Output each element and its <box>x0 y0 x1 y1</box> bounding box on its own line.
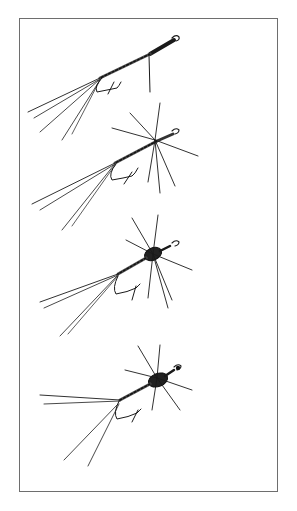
fly-3-drawing <box>40 215 192 336</box>
fly-illustrations <box>0 0 297 511</box>
fly-2-drawing <box>32 103 198 230</box>
fly-4-drawing <box>40 345 192 466</box>
fly-1-drawing <box>28 36 179 140</box>
